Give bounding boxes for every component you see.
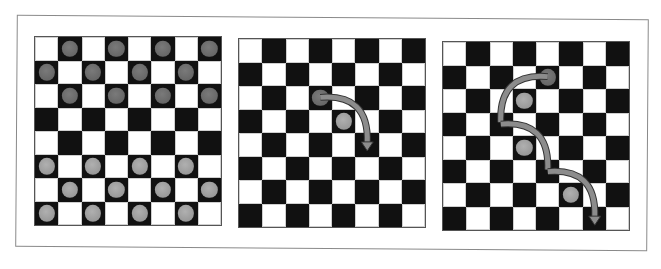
dark-square bbox=[239, 157, 262, 181]
light-square bbox=[198, 61, 221, 85]
light-checker-piece bbox=[38, 158, 54, 174]
dark-square bbox=[262, 180, 285, 204]
dark-square bbox=[286, 157, 309, 181]
dark-square bbox=[559, 42, 582, 66]
dark-square bbox=[379, 110, 402, 134]
light-square bbox=[105, 202, 128, 226]
dark-checker-piece bbox=[108, 41, 124, 57]
dark-square bbox=[151, 178, 174, 202]
dark-square bbox=[151, 131, 174, 155]
dark-checker-piece bbox=[62, 88, 78, 104]
dark-checker-piece bbox=[155, 88, 171, 104]
dark-square bbox=[128, 155, 151, 179]
light-square bbox=[606, 160, 629, 184]
light-square bbox=[239, 133, 262, 157]
light-square bbox=[105, 155, 128, 179]
light-square bbox=[536, 89, 559, 113]
light-square bbox=[466, 207, 489, 231]
light-square bbox=[332, 39, 355, 63]
light-square bbox=[402, 157, 425, 181]
dark-square bbox=[490, 207, 513, 231]
dark-square bbox=[198, 84, 221, 108]
light-square bbox=[151, 108, 174, 132]
dark-checker-piece bbox=[201, 88, 217, 104]
dark-square bbox=[175, 61, 198, 85]
dark-square bbox=[175, 202, 198, 226]
dark-square bbox=[379, 204, 402, 228]
light-square bbox=[82, 178, 105, 202]
light-square bbox=[58, 108, 81, 132]
dark-square bbox=[559, 183, 582, 207]
light-square bbox=[559, 66, 582, 90]
light-checker-piece bbox=[38, 205, 54, 221]
light-square bbox=[355, 63, 378, 87]
light-square bbox=[286, 39, 309, 63]
dark-square bbox=[175, 108, 198, 132]
light-square bbox=[105, 61, 128, 85]
dark-square bbox=[309, 133, 332, 157]
dark-square bbox=[513, 89, 536, 113]
light-square bbox=[513, 113, 536, 137]
light-square bbox=[490, 183, 513, 207]
light-square bbox=[443, 42, 466, 66]
light-square bbox=[35, 131, 58, 155]
light-square bbox=[198, 108, 221, 132]
dark-square bbox=[402, 39, 425, 63]
light-square bbox=[58, 61, 81, 85]
light-square bbox=[355, 157, 378, 181]
light-square bbox=[513, 207, 536, 231]
light-square bbox=[402, 204, 425, 228]
dark-square bbox=[443, 113, 466, 137]
dark-square bbox=[286, 63, 309, 87]
dark-square bbox=[466, 183, 489, 207]
dark-square bbox=[151, 84, 174, 108]
dark-square bbox=[355, 39, 378, 63]
dark-square bbox=[583, 66, 606, 90]
dark-square bbox=[198, 131, 221, 155]
light-square bbox=[128, 37, 151, 61]
light-checker-piece bbox=[108, 182, 124, 198]
light-square bbox=[35, 37, 58, 61]
light-square bbox=[332, 86, 355, 110]
dark-square bbox=[58, 37, 81, 61]
light-square bbox=[35, 178, 58, 202]
light-square bbox=[559, 160, 582, 184]
light-square bbox=[175, 178, 198, 202]
dark-square bbox=[402, 86, 425, 110]
dark-square bbox=[198, 37, 221, 61]
light-square bbox=[606, 207, 629, 231]
light-square bbox=[198, 155, 221, 179]
dark-square bbox=[402, 133, 425, 157]
light-square bbox=[379, 133, 402, 157]
light-square bbox=[286, 133, 309, 157]
dark-square bbox=[286, 204, 309, 228]
dark-square bbox=[239, 204, 262, 228]
dark-square bbox=[309, 39, 332, 63]
light-square bbox=[175, 131, 198, 155]
light-square bbox=[175, 84, 198, 108]
dark-square bbox=[105, 84, 128, 108]
light-square bbox=[379, 39, 402, 63]
light-square bbox=[35, 84, 58, 108]
light-square bbox=[262, 204, 285, 228]
dark-square bbox=[513, 42, 536, 66]
dark-square bbox=[58, 131, 81, 155]
light-square bbox=[379, 180, 402, 204]
light-square bbox=[559, 207, 582, 231]
light-checker-piece bbox=[516, 140, 532, 156]
dark-square bbox=[105, 131, 128, 155]
dark-square bbox=[128, 108, 151, 132]
light-checker-piece bbox=[85, 205, 101, 221]
light-square bbox=[128, 84, 151, 108]
dark-square bbox=[128, 202, 151, 226]
light-checker-piece bbox=[178, 158, 194, 174]
dark-square bbox=[606, 136, 629, 160]
dark-square bbox=[355, 180, 378, 204]
dark-square bbox=[262, 39, 285, 63]
dark-square bbox=[536, 66, 559, 90]
light-square bbox=[466, 160, 489, 184]
light-square bbox=[58, 155, 81, 179]
dark-square bbox=[490, 160, 513, 184]
light-square bbox=[239, 39, 262, 63]
dark-square bbox=[536, 207, 559, 231]
